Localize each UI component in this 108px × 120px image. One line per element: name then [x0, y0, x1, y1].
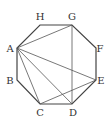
- vertex-label-h: H: [36, 11, 45, 22]
- vertex-labels-group: A B C D E F G H: [5, 11, 104, 118]
- vertex-label-b: B: [6, 75, 13, 86]
- octagon-outline: [17, 25, 96, 104]
- diagonal-ae: [17, 48, 96, 80]
- vertex-label-d: D: [69, 107, 77, 118]
- diagonal-ac: [17, 48, 40, 104]
- diagonal-ag: [17, 25, 72, 48]
- diagonal-ad: [17, 48, 72, 104]
- vertex-label-a: A: [5, 43, 14, 54]
- vertex-label-c: C: [36, 107, 44, 118]
- vertex-label-e: E: [97, 75, 104, 86]
- vertex-label-f: F: [97, 43, 104, 54]
- vertex-label-g: G: [68, 11, 76, 22]
- octagon-diagram: A B C D E F G H: [0, 0, 108, 120]
